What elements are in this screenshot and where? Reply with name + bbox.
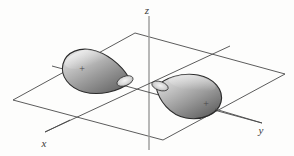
orbital-diagram-canvas: + + z x y xyxy=(0,0,294,156)
lower-right-lobe-sign: + xyxy=(203,98,209,109)
orbital-diagram: + + z x y xyxy=(0,0,294,156)
x-axis-label: x xyxy=(41,137,47,149)
y-axis-front-segment xyxy=(215,109,262,123)
upper-left-lobe: + xyxy=(62,43,134,94)
axis-overlays xyxy=(45,109,262,132)
z-axis-label: z xyxy=(144,4,150,16)
x-axis-front-segment xyxy=(45,120,70,132)
y-axis-label: y xyxy=(258,124,264,136)
upper-left-lobe-sign: + xyxy=(79,63,85,74)
